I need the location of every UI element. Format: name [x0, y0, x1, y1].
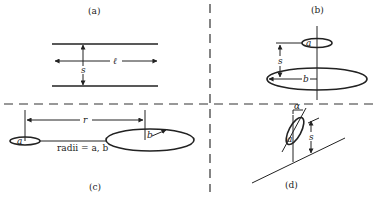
panel-a-label: (a)	[88, 6, 100, 16]
height-reference-line	[308, 118, 319, 123]
large-radius-symbol-c: b	[147, 130, 153, 140]
radius-symbol-d: a	[287, 134, 292, 144]
panel-b-label: (b)	[311, 5, 324, 15]
panel-d-label: (d)	[285, 180, 298, 190]
length-symbol: ℓ	[113, 56, 117, 66]
panel-c-label: (c)	[89, 182, 101, 192]
angle-symbol: α	[294, 101, 300, 111]
ground-plane	[252, 138, 345, 183]
diagram-canvas: (a) ℓ s (b) a b s r a b radii	[0, 0, 376, 199]
small-radius-symbol: a	[306, 38, 311, 48]
large-radius-symbol: b	[303, 74, 309, 84]
radii-caption: radii = a, b	[57, 143, 109, 153]
distance-symbol: r	[83, 115, 88, 125]
panel-d: a α s (d)	[252, 101, 345, 190]
radius-arrow-c	[152, 130, 166, 136]
height-symbol: s	[309, 132, 314, 142]
panel-b: (b) a b s	[267, 5, 367, 100]
panel-c: r a b radii = a, b (c)	[10, 110, 194, 192]
separation-symbol-b: s	[278, 56, 283, 66]
separation-symbol: s	[81, 65, 86, 75]
small-radius-symbol-c: a	[17, 136, 22, 146]
panel-a: (a) ℓ s	[52, 6, 158, 86]
